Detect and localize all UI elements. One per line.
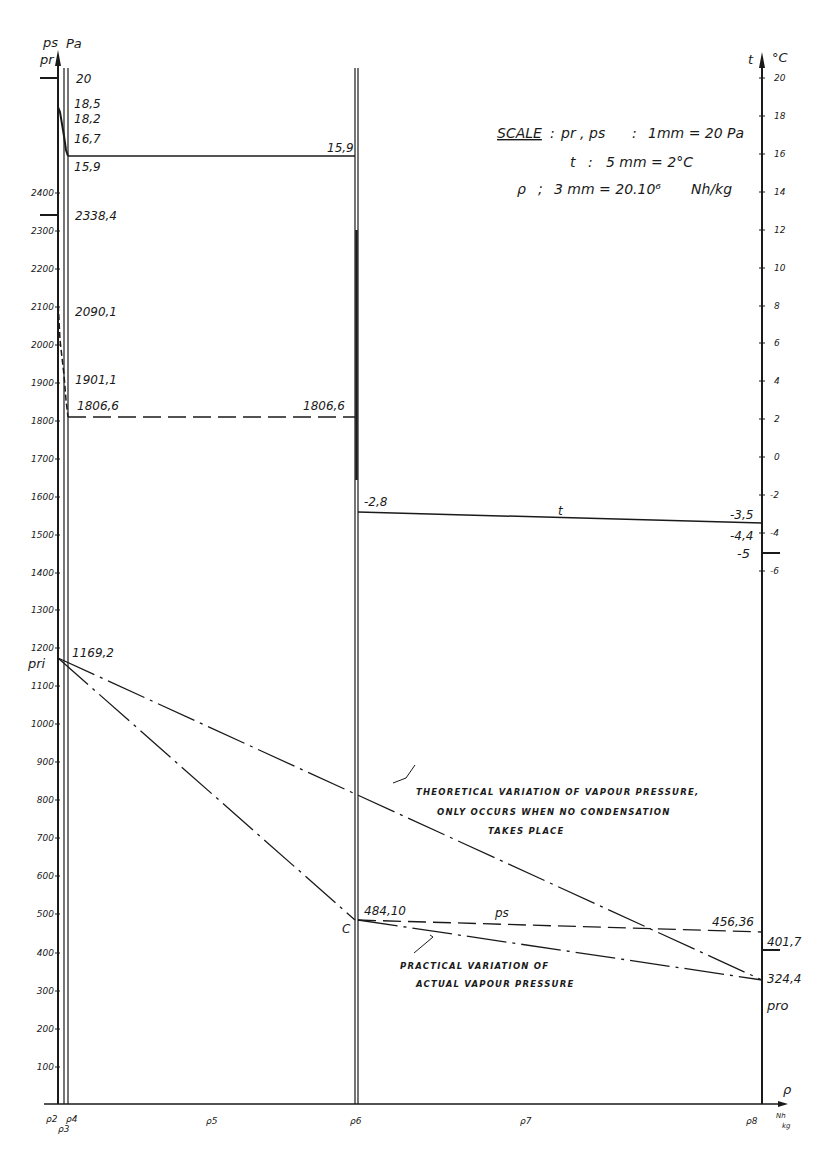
practical-vapour-pressure-line: C 484,10 pri 1169,2 324,4 pro: [27, 646, 801, 1013]
scale-line3-value: 3 mm = 20.10⁶: [554, 181, 661, 197]
scale-colon: :: [588, 154, 593, 170]
layer-label-rho4: ρ4: [66, 1114, 78, 1124]
tick-700: 700: [37, 833, 54, 843]
theoretical-vapour-pressure-line: [58, 658, 762, 980]
temp-15-9-left: 15,9: [74, 160, 101, 174]
layer-label-rho7: ρ7: [520, 1116, 532, 1126]
scale-line2-value: 5 mm = 2°C: [606, 154, 693, 170]
layer-label-rho5: ρ5: [206, 1116, 218, 1126]
tick-1800: 1800: [31, 416, 54, 426]
rho-unit-bottom: kg: [782, 1122, 791, 1130]
x-axis: ρ Nh kg ρ2 ρ3 ρ4 ρ5 ρ6 ρ7 ρ8: [44, 1082, 792, 1134]
tick-300: 300: [37, 986, 54, 996]
axis-arrow-icon: [55, 50, 61, 66]
tick-2000: 2000: [31, 340, 54, 350]
t-tick-8: 8: [774, 301, 780, 311]
glaser-diagram: ps pr Pa 100 200 300 400 500 600 700 800: [0, 0, 831, 1154]
temp-16-7: 16,7: [74, 132, 101, 146]
tick-1100: 1100: [31, 681, 54, 691]
t-tick-4: 4: [774, 376, 780, 386]
scale-line3-var: ρ: [517, 181, 526, 197]
tick-400: 400: [37, 948, 54, 958]
t-tick-18: 18: [774, 111, 786, 121]
axis-arrow-icon: [778, 1101, 788, 1107]
tick-200: 200: [37, 1024, 54, 1034]
t-tick-0: 0: [774, 452, 780, 462]
tick-1300: 1300: [31, 605, 54, 615]
temp-15-9-mid: 15,9: [327, 141, 354, 155]
layer-label-rho6: ρ6: [350, 1116, 362, 1126]
celsius-unit-label: °C: [772, 50, 789, 65]
layer-label-rho3: ρ3: [58, 1124, 70, 1134]
scale-line1-value: 1mm = 20 Pa: [648, 125, 744, 141]
temp-18-2: 18,2: [74, 112, 101, 126]
ps-456-36: 456,36: [712, 915, 754, 929]
tick-1900: 1900: [31, 378, 54, 388]
ps-1806-6-left: 1806,6: [77, 399, 119, 413]
tick-1500: 1500: [31, 530, 54, 540]
rho-axis-label: ρ: [783, 1082, 792, 1097]
t-tick-16: 16: [774, 149, 786, 159]
tick-2200: 2200: [31, 264, 54, 274]
tick-1200: 1200: [31, 643, 54, 653]
layer-boundaries: [64, 68, 358, 1104]
temp-minus-3-5: -3,5: [730, 508, 753, 522]
t-tick-12: 12: [774, 225, 786, 235]
pa-unit-label: Pa: [66, 36, 82, 51]
pr-axis-label: pr: [39, 52, 55, 67]
saturation-pressure-line: 2338,4 2090,1 1901,1 1806,6 1806,6 ps 45…: [58, 209, 802, 949]
ps-1901-1: 1901,1: [75, 373, 117, 387]
scale-semicolon: ;: [538, 181, 543, 197]
temp-minus-5: -5: [737, 546, 750, 561]
t-tick-minus4: -4: [770, 528, 779, 538]
scale-line1-vars: pr , ps: [560, 125, 605, 141]
theoretical-line-2: ONLY OCCURS WHEN NO CONDENSATION: [437, 807, 671, 817]
tick-1700: 1700: [31, 454, 54, 464]
t-tick-6: 6: [774, 338, 780, 348]
left-pressure-axis: ps pr Pa 100 200 300 400 500 600 700 800: [31, 35, 82, 1104]
temp-18-5: 18,5: [74, 97, 101, 111]
t-tick-minus6: -6: [770, 566, 779, 576]
practical-annotation: PRACTICAL VARIATION OF ACTUAL VAPOUR PRE…: [400, 935, 574, 989]
practical-line-2: ACTUAL VAPOUR PRESSURE: [415, 979, 574, 989]
tick-2100: 2100: [31, 302, 54, 312]
scale-line3-unit: Nh/kg: [691, 181, 732, 197]
tick-900: 900: [37, 757, 54, 767]
ps-axis-label: ps: [42, 35, 58, 50]
layer-label-rho2: ρ2: [46, 1114, 58, 1124]
temperature-line: 20 18,5 18,2 16,7 15,9 15,9 -2,8 t -3,5 …: [58, 72, 762, 561]
axis-arrow-icon: [759, 52, 765, 68]
practical-line-1: PRACTICAL VARIATION OF: [400, 961, 549, 971]
ps-1806-6-mid: 1806,6: [303, 399, 345, 413]
ps-2090-1: 2090,1: [75, 305, 117, 319]
ps-2338-4: 2338,4: [75, 209, 117, 223]
ps-line-label: ps: [494, 906, 509, 920]
tick-2300: 2300: [31, 226, 54, 236]
temp-minus-4-4: -4,4: [730, 529, 753, 543]
pri-1169-2: 1169,2: [72, 646, 114, 660]
tick-100: 100: [37, 1062, 54, 1072]
temp-20: 20: [76, 72, 92, 86]
tick-2400: 2400: [31, 188, 54, 198]
rho-unit-top: Nh: [776, 1112, 786, 1120]
pri-label: pri: [27, 656, 46, 671]
layer-label-rho8: ρ8: [746, 1116, 758, 1126]
pro-324-4: 324,4: [767, 972, 801, 986]
point-c-label: C: [342, 922, 351, 936]
scale-line2-var: t: [570, 154, 576, 170]
scale-legend: SCALE : pr , ps : 1mm = 20 Pa t : 5 mm =…: [497, 125, 744, 197]
t-tick-20: 20: [774, 73, 786, 83]
t-tick-2: 2: [774, 414, 780, 424]
tick-500: 500: [37, 909, 54, 919]
theoretical-line-3: TAKES PLACE: [488, 826, 564, 836]
t-axis-label: t: [748, 52, 754, 67]
scale-colon: :: [550, 125, 555, 141]
t-tick-14: 14: [774, 187, 786, 197]
tick-1000: 1000: [31, 719, 54, 729]
scale-colon: :: [632, 125, 637, 141]
theoretical-line-1: THEORETICAL VARIATION OF VAPOUR PRESSURE…: [416, 787, 699, 797]
tick-600: 600: [37, 871, 54, 881]
temp-line-label: t: [558, 504, 564, 518]
pro-label: pro: [766, 998, 789, 1013]
ps-401-7: 401,7: [767, 935, 802, 949]
